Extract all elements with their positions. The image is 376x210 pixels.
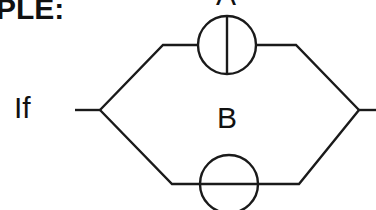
top-branch-left-wire [100, 45, 198, 110]
top-branch-right-wire [256, 45, 359, 110]
heading-text: PLE: [0, 0, 64, 25]
parallel-circuit-diagram: PLE: A If B [0, 0, 376, 210]
label-if: If [14, 91, 31, 124]
element-b-circle [200, 155, 258, 210]
label-a: A [216, 0, 236, 11]
label-b: B [217, 101, 237, 134]
